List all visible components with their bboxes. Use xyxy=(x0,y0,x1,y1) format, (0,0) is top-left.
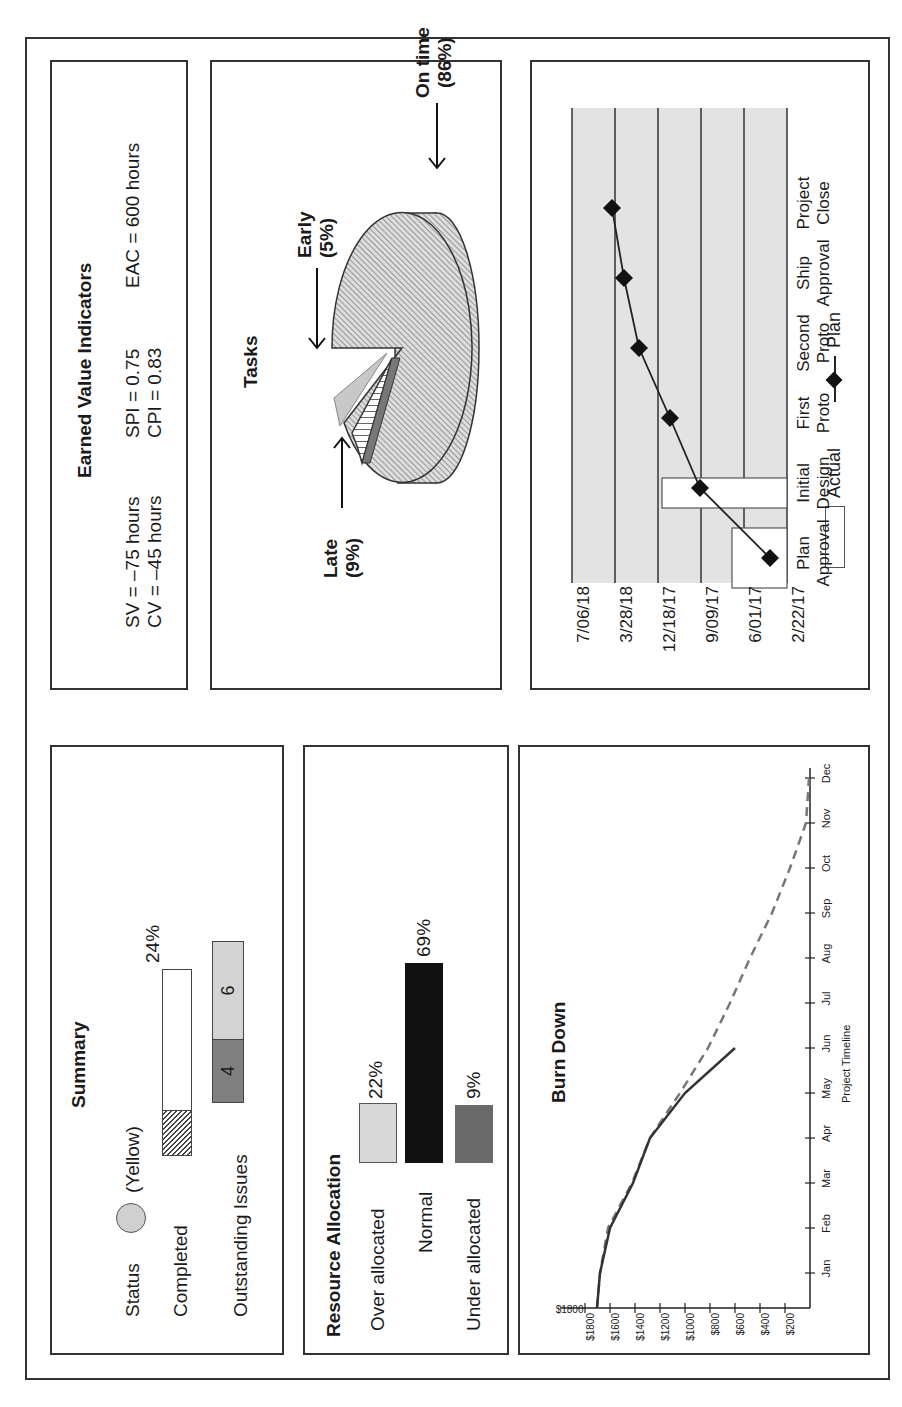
category-line: First xyxy=(794,378,814,448)
category-initial-design: InitialDesign xyxy=(794,448,834,518)
y-tick-600: $600 xyxy=(728,1313,753,1345)
actual-bar-initial-design xyxy=(662,478,787,508)
y-tick-6-01-17: 6/01/17 xyxy=(734,586,777,668)
milestones-category-row: PlanApproval InitialDesign FirstProto Se… xyxy=(794,168,834,588)
category-line: Project xyxy=(794,168,814,238)
resource-allocation-panel: Resource Allocation Over allocated 22% N… xyxy=(303,745,509,1355)
early-percent: (5%) xyxy=(316,218,338,258)
normal-label: Normal xyxy=(415,1192,437,1253)
under-allocated-percent: 9% xyxy=(463,1072,485,1099)
status-label: Status xyxy=(122,1263,144,1317)
category-line: Close xyxy=(814,168,834,238)
spi-value: SPI = 0.75 xyxy=(122,349,144,438)
burn-down-chart xyxy=(520,747,868,1353)
pie-slice-on-time xyxy=(332,212,472,482)
under-allocated-bar xyxy=(455,1105,493,1163)
x-tick-mar: Mar xyxy=(820,1156,832,1201)
status-indicator-icon xyxy=(116,1203,146,1233)
over-allocated-percent: 22% xyxy=(365,1061,387,1099)
late-percent: (9%) xyxy=(342,538,364,578)
completed-label: Completed xyxy=(170,1225,192,1317)
category-line: Proto xyxy=(814,378,834,448)
category-line: Proto xyxy=(814,308,834,378)
normal-bar xyxy=(405,963,443,1163)
x-tick-jan: Jan xyxy=(820,1246,832,1291)
normal-percent: 69% xyxy=(413,919,435,957)
category-plan-approval: PlanApproval xyxy=(794,518,834,588)
outstanding-issues-bar: 4 6 xyxy=(212,941,244,1103)
y-tick-1400: $1400 xyxy=(628,1313,653,1345)
category-line: Plan xyxy=(794,518,814,588)
x-tick-feb: Feb xyxy=(820,1201,832,1246)
category-project-close: ProjectClose xyxy=(794,168,834,238)
y-tick-800: $800 xyxy=(703,1313,728,1345)
y-tick-7-06-18: 7/06/18 xyxy=(562,586,605,668)
tasks-pie-chart xyxy=(212,62,500,688)
category-line: Approval xyxy=(814,518,834,588)
x-tick-aug: Aug xyxy=(820,931,832,976)
category-line: Second xyxy=(794,308,814,378)
category-line: Approval xyxy=(814,238,834,308)
cv-value: CV = –45 hours xyxy=(144,495,166,628)
category-second-proto: SecondProto xyxy=(794,308,834,378)
completed-progress-fill xyxy=(163,1110,191,1155)
x-tick-jul: Jul xyxy=(820,976,832,1021)
completed-percent: 24% xyxy=(142,925,164,963)
resource-allocation-title-text: Resource Allocation xyxy=(323,1154,345,1337)
category-ship-approval: ShipApproval xyxy=(794,238,834,308)
milestones-panel: Actual Plan 7/06/18 3/28/18 12/18/17 9/0… xyxy=(530,60,870,690)
x-tick-may: May xyxy=(820,1066,832,1111)
earned-value-panel: Earned Value Indicators SV = –75 hours C… xyxy=(50,60,188,690)
y-tick-1200: $1200 xyxy=(653,1313,678,1345)
sv-value: SV = –75 hours xyxy=(122,496,144,628)
summary-panel: Summary Status (Yellow) Completed 24% Ou… xyxy=(50,745,284,1355)
burn-down-xtick-row: Jan Feb Mar Apr May Jun Jul Aug Sep Oct … xyxy=(820,751,832,1291)
on-time-label: On time xyxy=(412,27,434,98)
x-tick-jun: Jun xyxy=(820,1021,832,1066)
status-value: (Yellow) xyxy=(122,1126,144,1193)
over-allocated-bar xyxy=(359,1103,397,1163)
x-tick-dec: Dec xyxy=(820,751,832,796)
outstanding-issues-label: Outstanding Issues xyxy=(230,1154,252,1317)
early-label: Early xyxy=(294,212,316,258)
burn-down-plan-line xyxy=(597,778,809,1308)
x-tick-nov: Nov xyxy=(820,796,832,841)
y-tick-2-22-17: 2/22/17 xyxy=(777,586,820,668)
outstanding-segment-b: 6 xyxy=(213,942,243,1039)
over-allocated-label: Over allocated xyxy=(367,1208,389,1331)
rotated-dashboard: Summary Status (Yellow) Completed 24% Ou… xyxy=(25,37,890,1380)
x-tick-sep: Sep xyxy=(820,886,832,931)
on-time-percent: (86%) xyxy=(434,37,456,88)
y-tick-200: $200 xyxy=(778,1313,803,1345)
burn-down-xlabel: Project Timeline xyxy=(840,1025,852,1103)
eac-value: EAC = 600 hours xyxy=(122,143,144,288)
outstanding-segment-a: 4 xyxy=(213,1039,243,1102)
earned-value-title: Earned Value Indicators xyxy=(74,263,96,478)
burn-down-actual-line xyxy=(597,1048,735,1308)
y-tick-1600: $1600 xyxy=(603,1313,628,1345)
y-tick-1800: $1800 xyxy=(578,1313,603,1345)
category-line: Design xyxy=(814,448,834,518)
y-tick-400: $400 xyxy=(753,1313,778,1345)
y-tick-9-09-17: 9/09/17 xyxy=(691,586,734,668)
category-line: Initial xyxy=(794,448,814,518)
cpi-value: CPI = 0.83 xyxy=(144,348,166,438)
under-allocated-label: Under allocated xyxy=(463,1198,485,1331)
y-tick-3-28-18: 3/28/18 xyxy=(605,586,648,668)
category-line: Ship xyxy=(794,238,814,308)
milestones-ytick-column: 7/06/18 3/28/18 12/18/17 9/09/17 6/01/17… xyxy=(562,586,820,668)
category-first-proto: FirstProto xyxy=(794,378,834,448)
completed-progress-bar xyxy=(162,969,192,1156)
burn-down-panel: Burn Down xyxy=(518,745,870,1355)
late-label: Late xyxy=(320,539,342,578)
burn-down-ytick-column: $1800 $1600 $1400 $1200 $1000 $800 $600 … xyxy=(578,1313,803,1345)
x-tick-oct: Oct xyxy=(820,841,832,886)
y-tick-1000: $1000 xyxy=(678,1313,703,1345)
y-tick-12-18-17: 12/18/17 xyxy=(648,586,691,668)
summary-title: Summary xyxy=(68,1021,90,1108)
x-tick-apr: Apr xyxy=(820,1111,832,1156)
tasks-panel: Tasks xyxy=(210,60,502,690)
